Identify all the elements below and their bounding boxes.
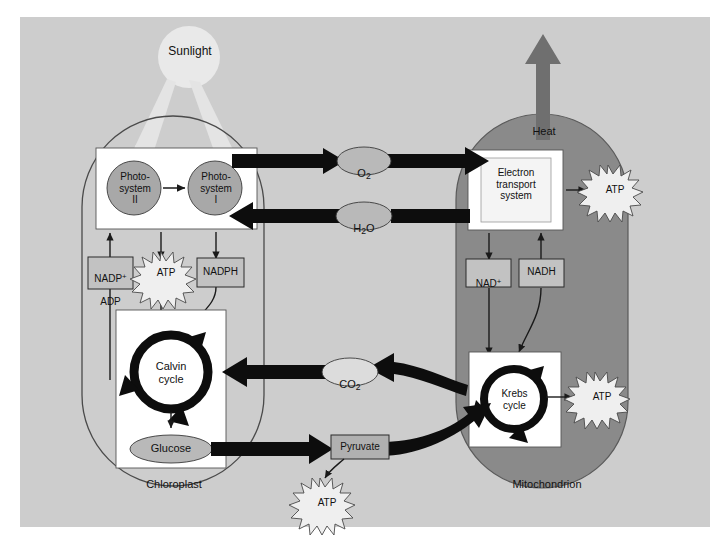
calvin-cycle-label: Calvin cycle [141, 360, 201, 385]
nad-plus-label: NAD+ [466, 266, 511, 289]
sunlight-label: Sunlight [152, 45, 228, 59]
pyruvate-label: Pyruvate [331, 441, 389, 453]
photosystem-2-label: Photo- system II [108, 171, 162, 206]
oxygen-base: O [357, 167, 366, 179]
co2-subscript: 2 [356, 382, 361, 392]
krebs-cycle-label: Krebs cycle [487, 388, 542, 411]
nadp-adp-label: NADP+ ADP [88, 261, 133, 307]
oxygen-label: O2 [344, 154, 384, 182]
oxygen-subscript: 2 [366, 171, 371, 181]
molecule-shapes [322, 147, 392, 459]
atp-chloroplast-label: ATP [146, 267, 186, 279]
nad-superscript: + [497, 277, 502, 286]
water-label: H2O [344, 209, 384, 237]
atp-ets-label: ATP [595, 184, 635, 196]
mitochondrion-label: Mitochondrion [497, 478, 597, 491]
nad-base: NAD [476, 278, 497, 289]
water-oxygen: O [366, 222, 375, 234]
atp-glycolysis-label: ATP [307, 497, 347, 509]
atp-krebs-label: ATP [582, 391, 622, 403]
carbon-dioxide-label: CO2 [329, 365, 371, 393]
nadp-superscript: + [122, 272, 127, 281]
adp-label: ADP [100, 296, 121, 307]
co2-base: CO [339, 378, 356, 390]
glucose-label: Glucose [141, 442, 201, 455]
diagram-canvas: Sunlight Heat Photo- system II Photo- sy… [0, 0, 722, 545]
electron-transport-label: Electron transport system [484, 167, 548, 202]
atp-starburst-chloroplast [130, 252, 196, 309]
nadp-base: NADP [94, 273, 122, 284]
photosystem-1-label: Photo- system I [189, 171, 243, 206]
chloroplast-label: Chloroplast [131, 478, 217, 491]
nadph-label: NADPH [197, 266, 244, 278]
heat-label: Heat [513, 125, 575, 138]
nadh-label: NADH [519, 266, 564, 278]
